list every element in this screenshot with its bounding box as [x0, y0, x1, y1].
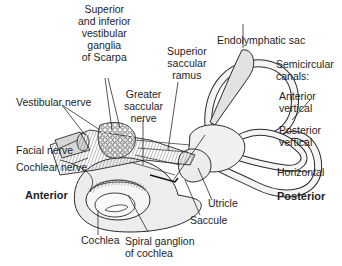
label-cochlea: Cochlea — [81, 234, 120, 246]
label-line: vertical — [279, 102, 316, 114]
label-superior-saccular-ramus: Superior saccular ramus — [167, 45, 207, 81]
label-cochlear-nerve: Cochlear nerve — [16, 161, 87, 173]
label-line: Posterior — [279, 124, 321, 136]
label-semicircular-canals: Semicircular canals: — [276, 58, 334, 82]
label-line: Greater — [124, 88, 163, 100]
label-line: Spiral ganglion — [125, 235, 194, 247]
label-line: Anterior — [279, 90, 316, 102]
inner-ear-diagram: Superior and inferior vestibular ganglia… — [0, 0, 342, 266]
label-anterior-vertical: Anterior vertical — [279, 90, 316, 114]
label-horizontal-canal: Horizontal — [277, 166, 324, 178]
label-posterior-vertical: Posterior vertical — [279, 124, 321, 148]
label-line: of cochlea — [125, 247, 194, 259]
label-line: ganglia — [78, 39, 131, 51]
label-line: of Scarpa — [78, 51, 131, 63]
label-line: Superior — [167, 45, 207, 57]
label-line: Semicircular — [276, 58, 334, 70]
label-line: and inferior — [78, 15, 131, 27]
label-anterior-orientation: Anterior — [25, 189, 68, 201]
label-saccule: Saccule — [190, 214, 227, 226]
label-line: canals: — [276, 70, 334, 82]
label-line: saccular — [124, 100, 163, 112]
label-posterior-orientation: Posterior — [277, 190, 325, 202]
label-utricle: Utricle — [208, 197, 238, 209]
label-line: nerve — [124, 112, 163, 124]
label-line: vertical — [279, 136, 321, 148]
label-line: ramus — [167, 69, 207, 81]
label-line: Superior — [78, 3, 131, 15]
label-endolymphatic-sac: Endolymphatic sac — [217, 34, 305, 46]
label-vestibular-nerve: Vestibular nerve — [16, 96, 91, 108]
label-line: vestibular — [78, 27, 131, 39]
label-facial-nerve: Facial nerve — [16, 144, 73, 156]
label-line: saccular — [167, 57, 207, 69]
label-spiral-ganglion: Spiral ganglion of cochlea — [125, 235, 194, 259]
label-scarpa-ganglia: Superior and inferior vestibular ganglia… — [78, 3, 131, 63]
label-greater-saccular-nerve: Greater saccular nerve — [124, 88, 163, 124]
